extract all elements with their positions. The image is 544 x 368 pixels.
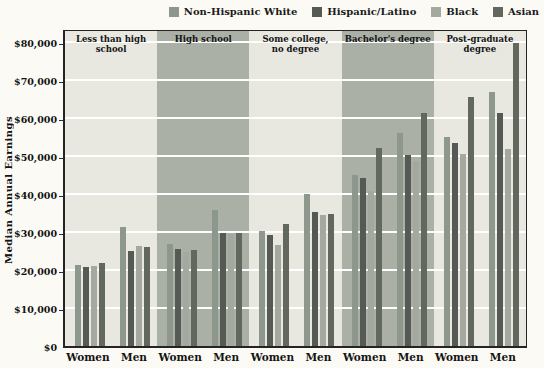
bar-group: [304, 31, 334, 346]
bar: [267, 235, 273, 346]
bar: [405, 155, 411, 346]
bar: [452, 143, 458, 346]
bar: [497, 113, 503, 346]
y-tick-mark: [59, 272, 63, 273]
bar: [83, 267, 89, 346]
y-tick-label: $70,000: [0, 76, 57, 88]
bar: [259, 231, 265, 346]
bar: [460, 154, 466, 346]
bar: [228, 234, 234, 346]
legend-swatch-icon: [431, 7, 441, 17]
bar: [175, 249, 181, 346]
bar: [320, 215, 326, 346]
x-axis-label: Men: [110, 351, 158, 363]
bar-group: [352, 31, 382, 346]
bar: [352, 175, 358, 346]
bar: [275, 245, 281, 346]
education-band-label: Some college, no degree: [249, 34, 341, 54]
bar: [489, 92, 495, 346]
x-axis-label: Men: [294, 351, 342, 363]
education-band-label: Less than high school: [65, 34, 157, 54]
bar: [220, 233, 226, 346]
bar: [376, 148, 382, 346]
plot-area: Less than high schoolHigh schoolSome col…: [63, 30, 527, 348]
y-tick-mark: [59, 234, 63, 235]
education-band-label: Bachelor's degree: [342, 34, 434, 44]
bar: [328, 214, 334, 346]
legend-item: Asian: [493, 6, 539, 17]
bar: [368, 191, 374, 346]
bar: [304, 194, 310, 346]
y-tick-label: $20,000: [0, 266, 57, 278]
bar-group: [259, 31, 289, 346]
bar: [421, 113, 427, 346]
bar: [128, 251, 134, 346]
x-axis-label: Women: [156, 351, 204, 363]
bar: [144, 247, 150, 346]
x-axis-label: Women: [64, 351, 112, 363]
bar: [397, 133, 403, 346]
y-tick-mark: [59, 196, 63, 197]
y-tick-label: $80,000: [0, 38, 57, 50]
legend-label: Black: [446, 6, 478, 17]
bar-group: [444, 31, 474, 346]
bar: [236, 233, 242, 346]
bar-group: [75, 31, 105, 346]
bar: [505, 149, 511, 346]
y-tick-mark: [59, 310, 63, 311]
y-tick-label: $0: [0, 342, 57, 354]
x-axis-label: Men: [202, 351, 250, 363]
bar: [360, 178, 366, 346]
y-tick-label: $10,000: [0, 304, 57, 316]
legend-swatch-icon: [493, 7, 503, 17]
bar: [99, 263, 105, 346]
y-tick-label: $40,000: [0, 190, 57, 202]
bar: [136, 246, 142, 346]
legend-label: Asian: [508, 6, 539, 17]
education-band-label: High school: [157, 34, 249, 44]
bar-group: [397, 31, 427, 346]
education-band-label: Post-graduate degree: [434, 34, 526, 54]
x-axis-label: Men: [387, 351, 435, 363]
x-axis-label: Women: [341, 351, 389, 363]
x-axis-label: Men: [479, 351, 527, 363]
bar-group: [167, 31, 197, 346]
bar: [444, 137, 450, 346]
x-axis-label: Women: [433, 351, 481, 363]
bar-group: [120, 31, 150, 346]
y-tick-mark: [59, 44, 63, 45]
chart-canvas: Non-Hispanic WhiteHispanic/LatinoBlackAs…: [0, 0, 544, 368]
bar: [191, 250, 197, 346]
x-axis-label: Women: [248, 351, 296, 363]
legend-label: Hispanic/Latino: [327, 6, 416, 17]
bar: [167, 244, 173, 346]
y-tick-mark: [59, 158, 63, 159]
y-tick-label: $50,000: [0, 152, 57, 164]
legend-swatch-icon: [312, 7, 322, 17]
y-tick-mark: [59, 120, 63, 121]
bar: [312, 212, 318, 346]
bar: [120, 227, 126, 346]
bar: [75, 265, 81, 346]
bar: [183, 252, 189, 346]
y-tick-label: $60,000: [0, 114, 57, 126]
legend-swatch-icon: [169, 7, 179, 17]
bar: [212, 210, 218, 346]
legend-label: Non-Hispanic White: [184, 6, 298, 17]
legend-item: Black: [431, 6, 478, 17]
bar: [413, 161, 419, 346]
bar: [91, 266, 97, 346]
bar-group: [489, 31, 519, 346]
bar-group: [212, 31, 242, 346]
bar: [468, 97, 474, 346]
legend: Non-Hispanic WhiteHispanic/LatinoBlackAs…: [169, 6, 539, 17]
y-tick-mark: [59, 82, 63, 83]
bar: [513, 43, 519, 346]
legend-item: Hispanic/Latino: [312, 6, 416, 17]
bar: [283, 224, 289, 346]
y-tick-label: $30,000: [0, 228, 57, 240]
legend-item: Non-Hispanic White: [169, 6, 298, 17]
